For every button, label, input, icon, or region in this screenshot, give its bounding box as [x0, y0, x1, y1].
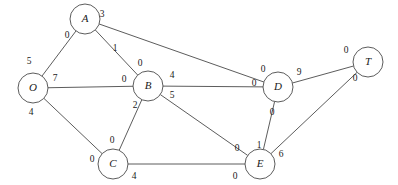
edge-label-b-d-from: 4 [170, 70, 175, 80]
node-d: D [263, 72, 293, 102]
edges-layer [42, 24, 357, 164]
edge-labels-layer: 507040103040205040019060 [27, 9, 358, 181]
nodes-layer: OABCDET [18, 4, 383, 179]
edge-label-d-e-to: 1 [257, 140, 262, 150]
edge-label-a-d-from: 3 [100, 9, 105, 19]
edge-o-a [42, 31, 76, 76]
node-label-c: C [109, 157, 117, 169]
node-label-d: D [273, 80, 282, 92]
edge-label-c-e-to: 0 [233, 171, 238, 181]
node-label-t: T [365, 55, 372, 67]
node-label-e: E [256, 157, 264, 169]
network-flow-diagram: OABCDET 507040103040205040019060 [0, 0, 398, 185]
edge-label-b-d-to: 0 [252, 78, 257, 88]
graph-canvas: OABCDET 507040103040205040019060 [0, 0, 398, 185]
node-label-o: O [29, 81, 37, 93]
edge-label-a-d-to: 0 [261, 64, 266, 74]
node-e: E [245, 149, 275, 179]
node-o: O [18, 73, 48, 103]
edge-label-c-e-from: 4 [132, 171, 137, 181]
edge-label-b-e-from: 5 [170, 90, 175, 100]
node-c: C [98, 149, 128, 179]
edge-label-o-a-to: 0 [65, 30, 70, 40]
edge-label-d-e-from: 0 [270, 107, 275, 117]
node-b: B [133, 71, 163, 101]
edge-label-b-c-from: 2 [133, 100, 138, 110]
edge-b-c [119, 100, 142, 151]
edge-o-c [44, 98, 102, 153]
edge-label-a-b-from: 1 [113, 43, 118, 53]
node-label-b: B [145, 79, 152, 91]
edge-label-o-b-from: 7 [53, 73, 58, 83]
edge-o-b [48, 86, 133, 87]
node-t: T [353, 47, 383, 77]
node-a: A [70, 4, 100, 34]
node-label-a: A [81, 12, 89, 24]
edge-label-d-t-from: 9 [297, 67, 302, 77]
edge-label-o-a-from: 5 [27, 56, 32, 66]
edge-label-b-e-to: 0 [235, 143, 240, 153]
edge-label-b-c-to: 0 [110, 135, 115, 145]
edge-d-t [292, 66, 353, 83]
edge-b-d [163, 86, 263, 87]
edge-label-o-b-to: 0 [122, 74, 127, 84]
edge-label-e-t-from: 6 [279, 149, 284, 159]
edge-label-o-c-to: 0 [90, 154, 95, 164]
edge-label-e-t-to: 0 [353, 73, 358, 83]
edge-label-o-c-from: 4 [29, 107, 34, 117]
edge-label-d-t-to: 0 [344, 45, 349, 55]
edge-label-a-b-to: 0 [138, 58, 143, 68]
